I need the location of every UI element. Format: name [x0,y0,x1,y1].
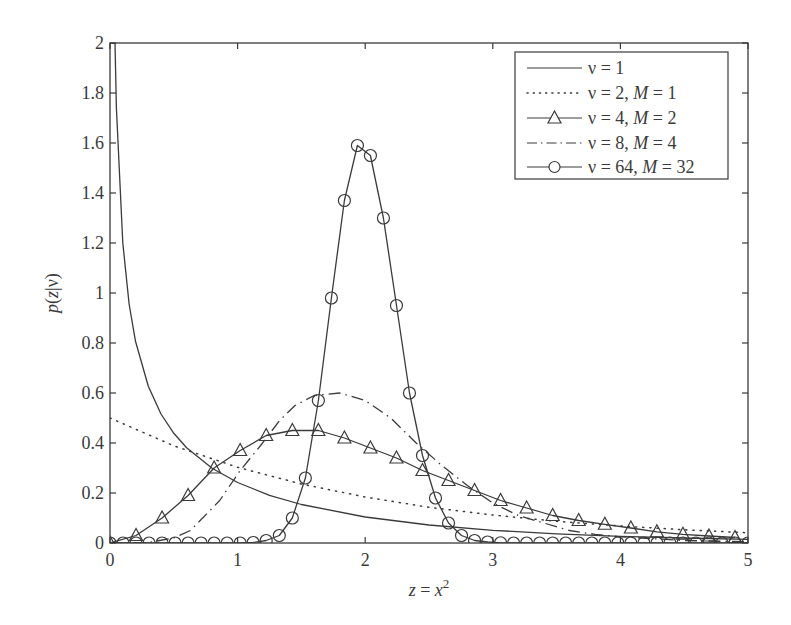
x-axis-label-exp: 2 [443,576,450,591]
x-axis-label: z = x2 [408,576,450,600]
y-tick-label: 0.4 [82,433,105,453]
y-tick-label: 0.6 [82,383,105,403]
legend-label: ν = 8, M = 4 [588,133,676,153]
legend-label: ν = 2, M = 1 [588,83,676,103]
y-tick-label: 1.6 [82,133,105,153]
x-tick-label: 3 [488,550,497,570]
y-tick-label: 1 [95,283,104,303]
y-axis-label-z: z [42,291,62,299]
legend-label: ν = 64, M = 32 [588,157,694,177]
y-tick-label: 1.2 [82,233,105,253]
y-axis-label-p: p [42,304,62,315]
x-tick-label: 1 [233,550,242,570]
y-tick-label: 1.8 [82,83,105,103]
x-tick-label: 2 [361,550,370,570]
x-tick-label: 0 [106,550,115,570]
y-tick-label: 1.4 [82,183,105,203]
x-axis-label-eq: = [416,580,435,600]
y-tick-label: 2 [95,33,104,53]
chart: 01234500.20.40.60.811.21.41.61.82 z = x2… [0,0,791,625]
y-axis-label-rest: |ν) [42,273,63,291]
legend-label: ν = 4, M = 2 [588,108,676,128]
legend: ν = 1 ν = 2, M = 1 ν = 4, M = 2 ν = 8, M… [515,52,728,179]
x-axis-label-x: x [434,580,443,600]
y-tick-label: 0 [95,533,104,553]
circle-marker-icon [549,162,560,173]
x-tick-label: 5 [744,550,753,570]
legend-label: ν = 1 [588,58,624,78]
x-tick-label: 4 [616,550,625,570]
y-tick-label: 0.2 [82,483,105,503]
x-axis-label-z: z [408,580,416,600]
y-tick-label: 0.8 [82,333,105,353]
y-axis-label: p(z|ν) [42,273,63,315]
